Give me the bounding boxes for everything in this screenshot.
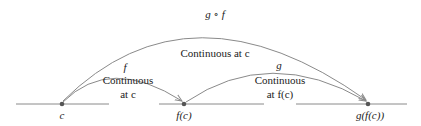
label-point-g-f-c: g(f(c)) (356, 110, 384, 121)
label-f: f (123, 62, 126, 73)
label-g-continuous: Continuous (255, 75, 306, 86)
label-g-compose-f: g ∘ f (205, 9, 224, 20)
point-f-c (182, 102, 187, 107)
label-g-at: at f(c) (267, 89, 294, 100)
label-g: g (276, 60, 282, 71)
label-point-c: c (60, 110, 65, 121)
label-gf-continuous: Continuous at c (180, 48, 249, 59)
point-g-f-c (366, 102, 371, 107)
label-f-at: at c (120, 89, 136, 100)
label-f-continuous: Continuous (103, 75, 154, 86)
point-c (60, 102, 65, 107)
label-point-f-c: f(c) (176, 110, 191, 121)
